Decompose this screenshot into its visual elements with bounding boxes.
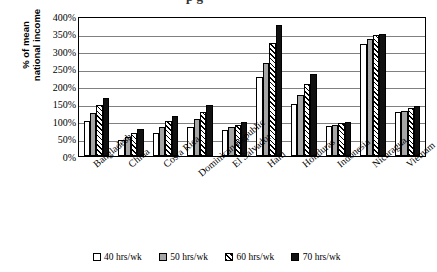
legend-item-label: 50 hrs/wk bbox=[170, 252, 208, 262]
legend-swatch-icon bbox=[291, 253, 299, 261]
cropped-chart-title-text: p g bbox=[186, 0, 203, 5]
legend-item[interactable]: 70 hrs/wk bbox=[291, 252, 340, 262]
bar bbox=[379, 34, 385, 157]
legend-item-label: 70 hrs/wk bbox=[303, 252, 341, 262]
legend-item-label: 60 hrs/wk bbox=[237, 252, 275, 262]
legend-item[interactable]: 50 hrs/wk bbox=[159, 252, 208, 262]
bar-group bbox=[79, 18, 114, 156]
legend-item[interactable]: 60 hrs/wk bbox=[225, 252, 274, 262]
bar-group bbox=[356, 18, 391, 156]
bar-group bbox=[390, 18, 425, 156]
y-axis-tick-label: 0% bbox=[63, 152, 76, 163]
y-axis-tick-label: 250% bbox=[53, 64, 76, 75]
bar bbox=[206, 105, 212, 156]
y-axis-tick-label: 200% bbox=[53, 82, 76, 93]
bar-group bbox=[287, 18, 322, 156]
legend-swatch-icon bbox=[159, 253, 167, 261]
y-axis-tick-label: 150% bbox=[53, 99, 76, 110]
legend-swatch-icon bbox=[93, 253, 101, 261]
y-axis-tick-label: 50% bbox=[58, 134, 76, 145]
y-axis-tick-label: 300% bbox=[53, 47, 76, 58]
chart-legend: 40 hrs/wk50 hrs/wk60 hrs/wk70 hrs/wk bbox=[0, 252, 433, 262]
y-axis-tick-label: 350% bbox=[53, 29, 76, 40]
bar-group bbox=[321, 18, 356, 156]
y-axis-tick-label: 100% bbox=[53, 117, 76, 128]
y-axis-tick-labels: 0%50%100%150%200%250%300%350%400% bbox=[28, 11, 76, 163]
legend-swatch-icon bbox=[225, 253, 233, 261]
bar bbox=[276, 25, 282, 156]
bar-group bbox=[148, 18, 183, 156]
bar bbox=[310, 74, 316, 156]
legend-item-label: 40 hrs/wk bbox=[104, 252, 142, 262]
x-axis-category-labels: BangladeshChinaCosta RicaDominican Repub… bbox=[78, 158, 426, 244]
bar-group bbox=[183, 18, 218, 156]
cropped-chart-title: p g bbox=[0, 0, 433, 9]
legend-item[interactable]: 40 hrs/wk bbox=[93, 252, 142, 262]
y-axis-tick-label: 400% bbox=[53, 12, 76, 23]
